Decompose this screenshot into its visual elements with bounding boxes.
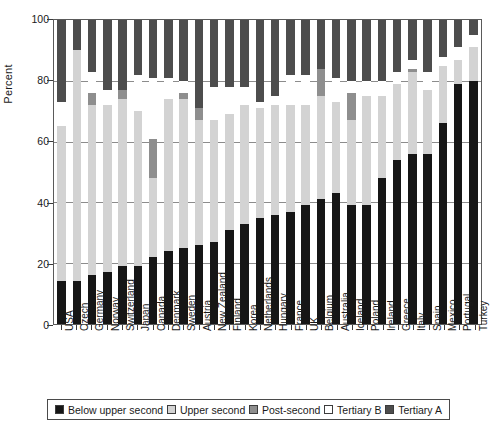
bar-segment-tertiary-a <box>210 20 219 87</box>
bar-segment-post-second <box>317 69 326 96</box>
bar-segment-upper-second <box>164 99 173 251</box>
x-tick-mark <box>107 325 108 330</box>
x-axis-label: Iceland <box>356 299 366 331</box>
bar-segment-tertiary-b <box>271 96 280 105</box>
stacked-bar[interactable] <box>362 20 371 324</box>
x-axis-label: Canada <box>157 296 167 331</box>
bar-slot <box>85 20 100 324</box>
x-tick-mark <box>413 325 414 330</box>
stacked-bar[interactable] <box>469 20 478 324</box>
stacked-bar[interactable] <box>301 20 310 324</box>
stacked-bar[interactable] <box>347 20 356 324</box>
bar-slot <box>359 20 374 324</box>
bar-segment-tertiary-b <box>286 75 295 105</box>
legend-item[interactable]: Tertiary B <box>324 404 381 416</box>
bar-segment-tertiary-b <box>149 78 158 139</box>
stacked-bar[interactable] <box>73 20 82 324</box>
x-label-slot: Hungary <box>268 331 283 393</box>
bar-segment-upper-second <box>256 108 265 217</box>
bar-segment-upper-second <box>378 96 387 178</box>
legend-label: Tertiary A <box>398 404 442 416</box>
bar-segment-tertiary-a <box>149 20 158 78</box>
stacked-bar[interactable] <box>179 20 188 324</box>
x-label-slot: Austria <box>191 331 206 393</box>
bar-segment-upper-second <box>332 102 341 193</box>
bar-slot <box>176 20 191 324</box>
stacked-bar[interactable] <box>423 20 432 324</box>
bar-segment-tertiary-a <box>256 20 265 102</box>
bar-segment-tertiary-b <box>164 78 173 99</box>
stacked-bar[interactable] <box>240 20 249 324</box>
x-axis-label: Portugal <box>463 294 473 331</box>
legend-item[interactable]: Tertiary A <box>385 404 442 416</box>
x-axis-label: Germany <box>95 290 105 331</box>
legend-item[interactable]: Post-second <box>249 404 320 416</box>
y-axis-title: Percent <box>2 24 16 144</box>
x-axis-label: Spain <box>433 305 443 331</box>
bar-slot <box>191 20 206 324</box>
stacked-bar[interactable] <box>195 20 204 324</box>
stacked-bar[interactable] <box>317 20 326 324</box>
stacked-bar[interactable] <box>88 20 97 324</box>
bar-segment-tertiary-b <box>179 81 188 93</box>
stacked-bar[interactable] <box>439 20 448 324</box>
bar-segment-tertiary-a <box>103 20 112 90</box>
stacked-bar[interactable] <box>57 20 66 324</box>
x-tick-mark <box>91 325 92 330</box>
bar-segment-tertiary-b <box>454 47 463 59</box>
stacked-bar[interactable] <box>286 20 295 324</box>
bar-segment-tertiary-a <box>88 20 97 72</box>
bar-segment-tertiary-a <box>195 20 204 108</box>
x-axis-label: USA <box>65 310 75 331</box>
legend-label: Below upper second <box>68 404 163 416</box>
stacked-bar[interactable] <box>164 20 173 324</box>
bar-segment-tertiary-b <box>88 72 97 93</box>
y-tick-mark <box>47 141 53 142</box>
stacked-bar[interactable] <box>408 20 417 324</box>
x-tick-mark <box>306 325 307 330</box>
bar-slot <box>146 20 161 324</box>
x-tick-mark <box>275 325 276 330</box>
bar-segment-tertiary-b <box>469 35 478 47</box>
x-label-slot: Turkey <box>467 331 482 393</box>
x-axis-label: Greece <box>402 298 412 331</box>
x-label-slot: Canada <box>145 331 160 393</box>
stacked-bar[interactable] <box>103 20 112 324</box>
x-label-slot: USA <box>53 331 68 393</box>
bar-segment-upper-second <box>317 96 326 199</box>
x-label-slot: Italy <box>406 331 421 393</box>
x-label-slot: Netherlands <box>252 331 267 393</box>
x-axis-label: Ireland <box>387 300 397 331</box>
x-axis-label: UK <box>310 317 320 331</box>
stacked-bar[interactable] <box>454 20 463 324</box>
y-tick-label: 80 <box>19 75 49 85</box>
x-label-slot: Portugal <box>452 331 467 393</box>
bar-segment-tertiary-a <box>179 20 188 81</box>
bar-segment-upper-second <box>362 96 371 205</box>
bar-slot <box>298 20 313 324</box>
bar-segment-tertiary-a <box>73 20 82 50</box>
x-tick-mark <box>367 325 368 330</box>
stacked-bar[interactable] <box>149 20 158 324</box>
legend-item[interactable]: Upper second <box>167 404 245 416</box>
bar-segment-post-second <box>118 90 127 99</box>
bar-segment-tertiary-b <box>393 72 402 84</box>
bar-slot <box>466 20 481 324</box>
stacked-bar[interactable] <box>393 20 402 324</box>
stacked-bar[interactable] <box>332 20 341 324</box>
bar-segment-upper-second <box>195 120 204 245</box>
bar-segment-tertiary-a <box>286 20 295 75</box>
legend-swatch-icon <box>385 405 394 414</box>
x-axis-label: Australia <box>341 292 351 331</box>
x-axis-label: Italy <box>417 313 427 331</box>
x-axis-label: New Zealand <box>218 272 228 331</box>
bar-segment-below-upper-second <box>469 81 478 324</box>
x-axis-label: Norway <box>111 297 121 331</box>
legend-item[interactable]: Below upper second <box>55 404 163 416</box>
x-tick-mark <box>429 325 430 330</box>
x-axis-label: Austria <box>203 300 213 331</box>
x-axis-label: Belgium <box>325 295 335 331</box>
x-label-slot: New Zealand <box>206 331 221 393</box>
bar-slot <box>420 20 435 324</box>
stacked-bar[interactable] <box>378 20 387 324</box>
